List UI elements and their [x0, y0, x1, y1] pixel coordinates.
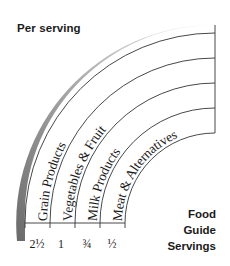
- legend-line-2: Guide: [167, 222, 216, 238]
- servings-vegetables: 1: [58, 237, 64, 251]
- servings-milk: ¾: [83, 237, 92, 251]
- servings-meat: ½: [108, 237, 117, 251]
- legend-line-3: Servings: [167, 238, 216, 254]
- servings-grain: 2½: [30, 237, 45, 251]
- food-guide-servings-legend: Food Guide Servings: [167, 206, 216, 254]
- legend-line-1: Food: [167, 206, 216, 222]
